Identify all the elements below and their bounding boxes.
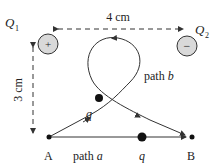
horizontal-dimension-label: 4 cm — [106, 10, 130, 24]
svg-text:q: q — [139, 149, 145, 163]
q1-subscript: 1 — [15, 24, 19, 33]
test-charge-on-path-b: q — [86, 94, 103, 121]
q2-label: Q — [195, 22, 205, 37]
electric-field-diagram: 4 cm 3 cm Q 1 + Q 2 − path a path b q q — [0, 0, 220, 168]
minus-icon: − — [184, 39, 191, 53]
path-b-label: path b — [144, 69, 174, 83]
charge-q1: Q 1 + — [5, 15, 58, 54]
path-a-label: path a — [73, 149, 103, 163]
q1-label: Q — [5, 15, 15, 30]
q2-subscript: 2 — [205, 31, 209, 40]
vertical-dimension-label: 3 cm — [11, 78, 25, 102]
point-a: A — [44, 135, 53, 164]
charge-q2: Q 2 − — [177, 22, 209, 56]
svg-text:A: A — [44, 149, 53, 163]
path-a: path a — [49, 137, 186, 163]
plus-icon: + — [45, 38, 51, 50]
test-charge-on-path-a: q — [138, 133, 147, 164]
vertical-dimension: 3 cm — [11, 47, 33, 133]
horizontal-dimension: 4 cm — [58, 10, 183, 29]
path-b: path b — [49, 38, 185, 137]
point-b: B — [187, 135, 195, 164]
svg-text:q: q — [86, 107, 92, 121]
svg-text:B: B — [187, 149, 195, 163]
